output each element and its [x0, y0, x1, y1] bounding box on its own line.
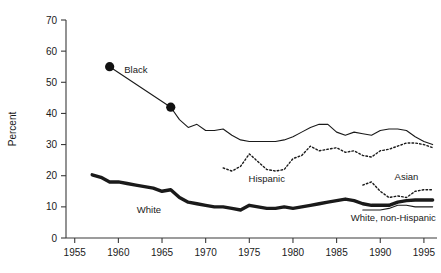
series-line-hispanic — [223, 143, 433, 171]
series-label-black: Black — [124, 64, 147, 75]
series-label-hispanic: Hispanic — [249, 173, 286, 184]
series-line-asian — [363, 182, 433, 198]
y-tick-label: 10 — [46, 201, 58, 212]
series-line-black — [110, 67, 433, 145]
x-tick-label: 1960 — [107, 247, 130, 258]
y-tick-label: 50 — [46, 77, 58, 88]
line-chart: 0102030405060701955196019651970197519801… — [0, 0, 441, 273]
x-tick-label: 1965 — [151, 247, 174, 258]
y-tick-label: 60 — [46, 46, 58, 57]
x-tick-label: 1955 — [64, 247, 87, 258]
x-tick-label: 1995 — [413, 247, 436, 258]
x-tick-label: 1990 — [369, 247, 392, 258]
y-tick-label: 20 — [46, 170, 58, 181]
y-tick-label: 0 — [51, 233, 57, 244]
x-tick-label: 1970 — [195, 247, 218, 258]
y-tick-label: 30 — [46, 139, 58, 150]
x-tick-label: 1985 — [325, 247, 348, 258]
series-label-asian: Asian — [395, 171, 419, 182]
series-marker-black — [105, 62, 114, 71]
series-label-white-non-hispanic: White, non-Hispanic — [351, 212, 436, 223]
series-marker-black — [166, 103, 175, 112]
series-label-white: White — [137, 204, 161, 215]
y-axis-title: Percent — [7, 112, 18, 147]
y-tick-label: 70 — [46, 15, 58, 26]
y-tick-label: 40 — [46, 108, 58, 119]
x-tick-label: 1975 — [238, 247, 261, 258]
chart-container: 0102030405060701955196019651970197519801… — [0, 0, 441, 273]
x-tick-label: 1980 — [282, 247, 305, 258]
